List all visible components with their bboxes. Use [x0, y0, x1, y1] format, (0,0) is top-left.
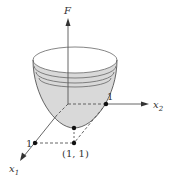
x1-axis-label: x1 — [9, 163, 19, 177]
x2-tick-label: 1 — [107, 91, 113, 102]
f-axis-arrow-icon — [66, 18, 71, 26]
x1-tick-point — [33, 141, 37, 145]
x2-tick-point — [104, 102, 108, 106]
f-axis-label: F — [63, 5, 72, 16]
x1-tick-label: 1 — [26, 138, 32, 149]
paraboloid-diagram: F x2 x1 1 1 (1, 1) — [0, 0, 171, 181]
x1-axis — [24, 115, 57, 156]
x2-axis-label: x2 — [153, 99, 164, 113]
minimum-point-projection — [72, 141, 76, 145]
x2-axis-arrow-icon — [141, 102, 149, 107]
surface-minimum-point — [72, 126, 76, 130]
minimum-point-label: (1, 1) — [62, 148, 89, 159]
